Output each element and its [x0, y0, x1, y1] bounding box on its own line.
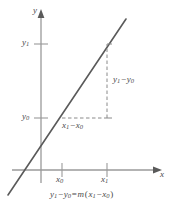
caption-x1-subscript: 1: [92, 192, 95, 199]
run-term1-subscript: 1: [66, 123, 69, 130]
x-tick-label-x1: x1: [101, 175, 108, 184]
caption-x0-subscript: 0: [106, 192, 109, 199]
caption-y0-subscript: 0: [68, 192, 71, 199]
y-tick-label-y0: y0: [22, 112, 29, 121]
rise-term2-subscript: 0: [131, 77, 134, 84]
rise-term1-subscript: 1: [117, 77, 120, 84]
rise-label: y1−y0: [113, 75, 134, 84]
y-tick-label-y1: y1: [22, 38, 29, 47]
figure-caption-equation: y1−y0=m(x1−x0): [50, 190, 114, 199]
x-axis-label: x: [160, 170, 164, 179]
run-term2-subscript: 0: [80, 123, 83, 130]
y-axis: [38, 9, 45, 183]
y-axis-arrow-icon: [38, 9, 45, 18]
x0-subscript: 0: [60, 177, 63, 184]
caption-paren-close: ): [109, 189, 113, 199]
x-axis: [12, 167, 162, 174]
y-axis-label: y: [33, 6, 37, 15]
rise-bracket-caps: [107, 44, 112, 118]
caption-y1-subscript: 1: [54, 192, 57, 199]
run-label: x1−x0: [62, 121, 83, 130]
slope-figure: y x y1 y0 x0 x1 y1−y0 x1−x0 y1−y0=m(x1−x…: [0, 0, 174, 207]
y0-subscript: 0: [26, 114, 29, 121]
x1-subscript: 1: [105, 177, 108, 184]
y1-subscript: 1: [26, 40, 29, 47]
x-tick-label-x0: x0: [56, 175, 63, 184]
figure-graphics: [0, 0, 174, 207]
